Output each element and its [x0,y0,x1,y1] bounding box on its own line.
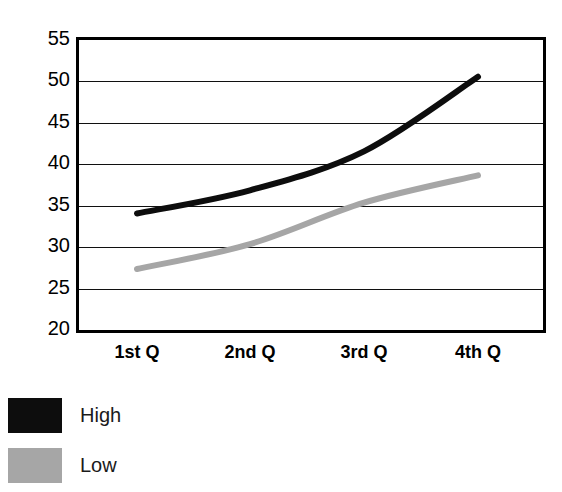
x-tick-label-2: 2nd Q [190,341,310,363]
y-tick-label: 20 [10,318,70,338]
legend-swatch-low [8,448,62,483]
y-tick-label: 50 [10,69,70,89]
x-tick-label-1: 1st Q [77,341,197,363]
chart-legend: High Low [0,390,300,490]
gridline-45 [79,123,543,124]
y-tick-label: 55 [10,28,70,48]
line-chart: 55 50 45 40 35 30 25 20 1st Q 2nd Q 3rd … [0,0,562,492]
legend-swatch-high [8,398,62,433]
legend-item-high: High [0,390,300,440]
gridline-25 [79,289,543,290]
legend-label-high: High [80,401,121,429]
legend-label-low: Low [80,451,117,479]
gridline-30 [79,247,543,248]
y-tick-label: 40 [10,152,70,172]
y-tick-label: 35 [10,194,70,214]
y-tick-label: 30 [10,235,70,255]
x-tick-label-4: 4th Q [418,341,538,363]
x-tick-label-3: 3rd Q [304,341,424,363]
gridline-35 [79,206,543,207]
y-tick-label: 45 [10,111,70,131]
legend-item-low: Low [0,440,300,490]
gridline-40 [79,164,543,165]
x-axis-tick-labels: 1st Q 2nd Q 3rd Q 4th Q [0,341,562,367]
gridline-50 [79,81,543,82]
y-tick-label: 25 [10,277,70,297]
plot-area [76,37,546,333]
